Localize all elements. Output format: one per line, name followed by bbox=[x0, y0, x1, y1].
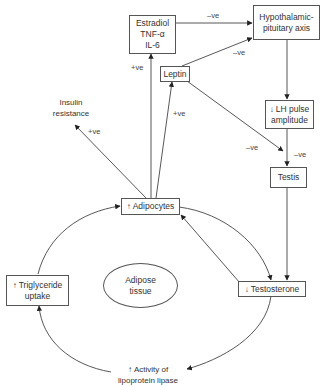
edge-label-adipocytes-insulin: +ve bbox=[88, 127, 100, 136]
node-estradiol-tnf-il6: Estradiol TNF-α IL-6 bbox=[129, 15, 176, 54]
edge-adipocytes-insulin bbox=[75, 125, 146, 198]
node-label: Hypothalamic- bbox=[259, 12, 313, 23]
node-label: amplitude bbox=[271, 115, 308, 126]
node-label: resistance bbox=[48, 108, 94, 119]
node-testis: Testis bbox=[270, 167, 307, 188]
edge-label-lh-testis: –ve bbox=[294, 150, 306, 159]
node-label: Activity of bbox=[134, 364, 168, 375]
up-arrow-icon: ↑ bbox=[13, 280, 17, 291]
node-label: Adipose bbox=[125, 275, 156, 286]
node-label: TNF-α bbox=[140, 29, 164, 40]
node-insulin-resistance: Insulin resistance bbox=[48, 97, 94, 119]
node-adipose-tissue: Adipose tissue bbox=[103, 263, 178, 308]
node-testosterone: ↓ Testosterone bbox=[238, 281, 306, 297]
node-label: LH pulse bbox=[276, 104, 310, 115]
down-arrow-icon: ↓ bbox=[270, 104, 274, 115]
edge-lipase-triglyceride bbox=[39, 306, 111, 372]
node-label: Adipocytes bbox=[133, 201, 175, 212]
node-adipocytes: ↑ Adipocytes bbox=[121, 198, 180, 215]
node-triglyceride-uptake: ↑ Triglyceride uptake bbox=[6, 275, 69, 306]
edge-adipocytes-leptin bbox=[156, 82, 172, 198]
node-label: Triglyceride bbox=[19, 280, 63, 291]
node-label: Estradiol bbox=[136, 18, 169, 29]
node-label: Insulin bbox=[48, 97, 94, 108]
edge-label-adipocytes-estradiol: +ve bbox=[131, 63, 143, 72]
edge-label-adipocytes-leptin: +ve bbox=[173, 109, 185, 118]
node-label: Testis bbox=[278, 172, 300, 183]
up-arrow-icon: ↑ bbox=[128, 364, 132, 375]
node-hypothalamic-pituitary-axis: Hypothalamic- pituitary axis bbox=[253, 5, 320, 40]
edge-testosterone-lipase bbox=[187, 296, 271, 369]
edge-triglyceride-adipocytes bbox=[38, 206, 120, 274]
node-lipoprotein-lipase-activity: ↑ Activity of lipoprotein lipase bbox=[108, 364, 188, 386]
node-label: lipoprotein lipase bbox=[108, 375, 188, 386]
node-label: Testosterone bbox=[251, 284, 300, 295]
node-label: pituitary axis bbox=[263, 23, 310, 34]
down-arrow-icon: ↓ bbox=[245, 284, 249, 295]
edge-label-estradiol-hpa: –ve bbox=[207, 11, 219, 20]
edge-label-leptin-hpa: –ve bbox=[233, 48, 245, 57]
node-label: IL-6 bbox=[145, 40, 160, 51]
node-label: Leptin bbox=[163, 69, 186, 80]
edge-label-leptin-testis: –ve bbox=[246, 143, 258, 152]
edge-adipocytes-testosterone bbox=[179, 207, 271, 280]
node-label: tissue bbox=[129, 286, 151, 297]
diagram-connectors bbox=[0, 0, 325, 387]
up-arrow-icon: ↑ bbox=[127, 201, 131, 212]
node-lh-pulse-amplitude: ↓ LH pulse amplitude bbox=[265, 100, 314, 129]
node-leptin: Leptin bbox=[160, 66, 190, 82]
edge-testosterone-adipocytes bbox=[181, 215, 240, 283]
node-label: uptake bbox=[25, 291, 51, 302]
